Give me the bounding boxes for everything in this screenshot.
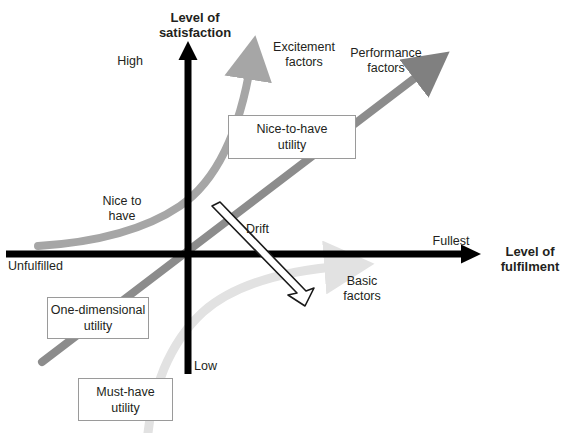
callout-nice-to-have-utility: Nice-to-have utility bbox=[228, 115, 356, 159]
x-axis-fullest-label: Fullest bbox=[424, 234, 478, 249]
nice-to-have-label: Nice to have bbox=[93, 194, 151, 224]
basic-factors-label: Basic factors bbox=[336, 274, 388, 304]
drift-label: Drift bbox=[246, 222, 286, 237]
y-axis-low-label: Low bbox=[194, 359, 234, 374]
x-axis-title: Level of fulfilment bbox=[492, 244, 568, 274]
performance-factors-label: Performance factors bbox=[342, 46, 430, 76]
excitement-factors-label: Excitement factors bbox=[264, 40, 344, 70]
y-axis-high-label: High bbox=[107, 54, 153, 69]
callout-one-dimensional-utility: One-dimensional utility bbox=[47, 297, 149, 339]
kano-diagram: Level of satisfaction High Low Level of … bbox=[0, 0, 572, 433]
callout-must-have-utility: Must-have utility bbox=[78, 378, 173, 421]
y-axis-title: Level of satisfaction bbox=[152, 10, 238, 40]
curve-basic-factors bbox=[148, 266, 344, 433]
x-axis-unfulfilled-label: Unfulfilled bbox=[8, 259, 88, 274]
